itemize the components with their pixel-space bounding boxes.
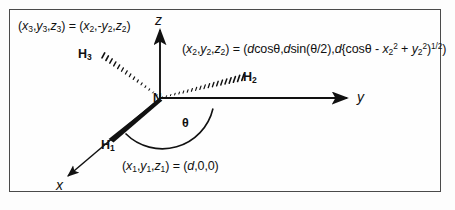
equation-h1-coords: (x1,y1,z1) = (d,0,0): [122, 160, 219, 174]
atom-label-h1: H1: [101, 139, 115, 153]
atom-label-nitrogen: N: [153, 92, 162, 104]
equation-h2-coords: (x2,y2,z2) = (dcosθ,dsin(θ/2),d{cosθ - x…: [182, 43, 446, 57]
axis-label-y: y: [357, 90, 364, 104]
equation-h3-coords: (x3,y3,z3) = (x2,-y2,z2): [18, 20, 131, 34]
atom-label-h2: H2: [243, 71, 257, 85]
figure-root: (x3,y3,z3) = (x2,-y2,z2) (x2,y2,z2) = (d…: [0, 0, 455, 210]
angle-label-theta: θ: [182, 117, 189, 130]
figure-border: [9, 9, 441, 192]
axis-label-x: x: [56, 178, 63, 192]
atom-label-h3: H3: [78, 48, 92, 62]
axis-label-z: z: [155, 13, 162, 27]
